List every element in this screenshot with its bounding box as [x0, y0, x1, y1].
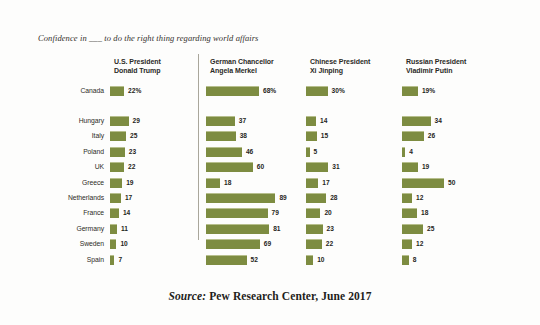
bar-cell-ru-putin: 19 — [402, 162, 508, 171]
bar-cell-cn-xi: 31 — [306, 162, 400, 171]
bar-value-de-merkel: 68% — [263, 86, 276, 95]
bar-cell-us-trump: 19 — [110, 178, 196, 187]
bar-cell-de-merkel: 46 — [206, 147, 306, 156]
column-header-chinese-president: Chinese President Xi Jinping — [310, 57, 402, 75]
bar-value-cn-xi: 20 — [324, 208, 331, 217]
chart-row: Greece19181750 — [38, 177, 508, 188]
bar-cell-cn-xi: 30% — [306, 86, 400, 95]
bar-de-merkel — [206, 193, 275, 203]
bar-value-cn-xi: 10 — [317, 255, 324, 264]
bar-value-cn-xi: 15 — [321, 131, 328, 140]
bar-ru-putin — [402, 131, 424, 141]
bar-us-trump — [110, 208, 119, 218]
bar-value-de-merkel: 46 — [246, 147, 253, 156]
column-header-line2: Donald Trump — [114, 66, 204, 75]
bar-cell-us-trump: 25 — [110, 131, 196, 140]
bar-value-us-trump: 14 — [123, 208, 130, 217]
chart-row: Spain752108 — [38, 254, 508, 265]
chart-row: Sweden10692212 — [38, 238, 508, 249]
bar-value-de-merkel: 52 — [251, 255, 258, 264]
bar-cell-ru-putin: 34 — [402, 116, 508, 125]
bar-cell-de-merkel: 18 — [206, 178, 306, 187]
bar-cell-us-trump: 10 — [110, 239, 196, 248]
bar-cell-de-merkel: 38 — [206, 131, 306, 140]
bar-de-merkel — [206, 208, 268, 218]
bar-value-cn-xi: 14 — [320, 116, 327, 125]
bar-cn-xi — [306, 208, 320, 218]
chart-row: Germany11812325 — [38, 223, 508, 234]
bar-value-ru-putin: 26 — [428, 131, 435, 140]
bar-value-de-merkel: 81 — [273, 224, 280, 233]
bar-cell-ru-putin: 4 — [402, 147, 508, 156]
bar-cell-ru-putin: 19% — [402, 86, 508, 95]
column-header-us-president: U.S. President Donald Trump — [114, 57, 204, 75]
source-label: Source: — [168, 290, 206, 302]
bar-value-us-trump: 22 — [128, 162, 135, 171]
chart-row: Hungary29371434 — [38, 115, 508, 126]
bar-cn-xi — [306, 239, 322, 249]
bar-us-trump — [110, 239, 116, 249]
bar-ru-putin — [402, 86, 418, 96]
country-label: Poland — [38, 146, 104, 157]
bar-cell-cn-xi: 23 — [306, 224, 400, 233]
bar-cn-xi — [306, 162, 328, 172]
chart-row: France14792018 — [38, 207, 508, 218]
bar-cell-us-trump: 11 — [110, 224, 196, 233]
bar-cell-ru-putin: 12 — [402, 193, 508, 202]
column-header-line2: Xi Jinping — [310, 66, 402, 75]
bar-cell-us-trump: 22 — [110, 162, 196, 171]
bar-value-us-trump: 19 — [126, 178, 133, 187]
country-label: Netherlands — [38, 192, 104, 203]
bar-ru-putin — [402, 208, 417, 218]
plot-area: U.S. President Donald Trump German Chanc… — [38, 52, 508, 247]
bar-value-ru-putin: 18 — [421, 208, 428, 217]
bar-value-ru-putin: 19 — [422, 162, 429, 171]
bar-cell-us-trump: 23 — [110, 147, 196, 156]
column-header-russian-president: Russian President Vladimir Putin — [406, 57, 502, 75]
bar-us-trump — [110, 178, 122, 188]
bar-value-ru-putin: 8 — [413, 255, 417, 264]
chart-row: Canada22%68%30%19% — [38, 85, 508, 96]
bar-cell-cn-xi: 10 — [306, 255, 400, 264]
bar-ru-putin — [402, 239, 412, 249]
chart-row: UK22603119 — [38, 161, 508, 172]
bar-value-ru-putin: 4 — [409, 147, 413, 156]
bar-value-cn-xi: 23 — [327, 224, 334, 233]
bar-us-trump — [110, 255, 114, 265]
column-header-line1: German Chancellor — [210, 58, 274, 65]
bar-ru-putin — [402, 193, 412, 203]
bar-de-merkel — [206, 239, 260, 249]
bar-cell-de-merkel: 89 — [206, 193, 306, 202]
bar-cell-de-merkel: 68% — [206, 86, 306, 95]
bar-cell-us-trump: 22% — [110, 86, 196, 95]
bar-cell-de-merkel: 37 — [206, 116, 306, 125]
chart-row: Netherlands17892812 — [38, 192, 508, 203]
bar-cell-cn-xi: 17 — [306, 178, 400, 187]
bar-value-cn-xi: 28 — [330, 193, 337, 202]
bar-de-merkel — [206, 224, 269, 234]
country-label: Sweden — [38, 238, 104, 249]
bar-cell-ru-putin: 50 — [402, 178, 508, 187]
bar-cell-us-trump: 7 — [110, 255, 196, 264]
bar-de-merkel — [206, 116, 235, 126]
bar-value-cn-xi: 17 — [322, 178, 329, 187]
bar-de-merkel — [206, 147, 242, 157]
bar-cn-xi — [306, 147, 310, 157]
bar-us-trump — [110, 193, 121, 203]
bar-de-merkel — [206, 131, 236, 141]
bar-cn-xi — [306, 131, 317, 141]
bar-value-ru-putin: 12 — [416, 193, 423, 202]
bar-ru-putin — [402, 147, 405, 157]
bar-cell-de-merkel: 69 — [206, 239, 306, 248]
country-label: Canada — [38, 85, 104, 96]
bar-cn-xi — [306, 224, 323, 234]
chart-row: Italy25381526 — [38, 130, 508, 141]
bar-value-us-trump: 22% — [128, 86, 141, 95]
country-label: UK — [38, 161, 104, 172]
country-label: Hungary — [38, 115, 104, 126]
bar-ru-putin — [402, 162, 418, 172]
bar-cell-cn-xi: 14 — [306, 116, 400, 125]
column-header-line1: U.S. President — [114, 58, 161, 65]
bar-value-us-trump: 17 — [125, 193, 132, 202]
bar-cell-de-merkel: 79 — [206, 208, 306, 217]
